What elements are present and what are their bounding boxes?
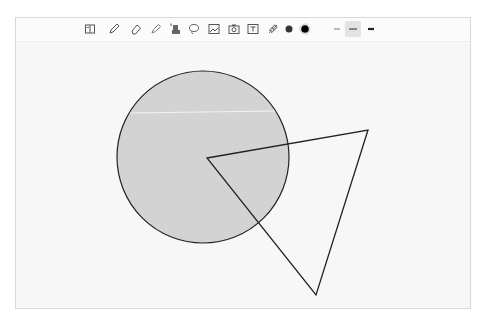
canvas-shapes bbox=[0, 0, 486, 320]
circle-shape[interactable] bbox=[117, 71, 289, 243]
